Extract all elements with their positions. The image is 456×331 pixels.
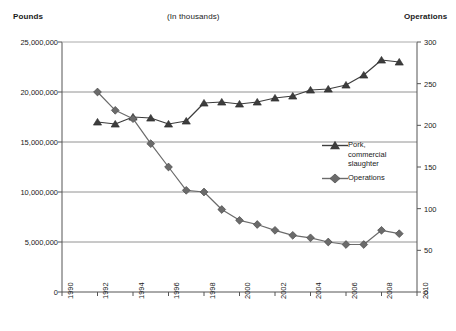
diamond-icon [322,173,348,184]
bottom-axis-tick-label: 2000 [243,282,252,299]
data-point-diamond [236,216,244,224]
left-axis-ticks [58,42,62,292]
legend-item-pork: Pork, commercial slaughter [322,140,408,169]
right-axis-tick-label: 200 [424,121,456,130]
bottom-axis-tick-label: 1992 [101,282,110,299]
right-axis-tick-label: 150 [424,163,456,172]
legend-label-pork: Pork, commercial slaughter [348,140,386,169]
bottom-axis-ticks [62,292,417,296]
data-point-diamond [129,115,137,123]
data-point-diamond [324,238,332,246]
bottom-axis-tick-label: 2010 [421,282,430,299]
bottom-axis-tick-label: 2006 [350,282,359,299]
bottom-axis-tick-label: 1998 [208,282,217,299]
data-point-diamond [253,221,261,229]
left-axis-tick-label: 25,000,000 [0,38,58,47]
data-point-diamond [289,231,297,239]
left-axis-tick-label: 5,000,000 [0,238,58,247]
data-point-diamond [271,226,279,234]
left-axis-tick-label: 10,000,000 [0,188,58,197]
right-axis-tick-label: 300 [424,38,456,47]
data-point-triangle [342,81,350,88]
left-axis-tick-label: 0 [0,288,58,297]
bottom-axis-tick-label: 2008 [385,282,394,299]
chart-container: Pounds (In thousands) Operations 05,000,… [0,0,456,331]
right-axis-tick-label: 250 [424,79,456,88]
data-point-diamond [395,230,403,238]
bottom-axis-tick-label: 1990 [66,282,75,299]
triangle-icon [322,140,348,151]
right-axis-ticks [417,42,421,292]
chart-legend: Pork, commercial slaughter Operations [322,140,408,186]
right-axis-tick-label: 50 [424,246,456,255]
data-point-diamond [307,234,315,242]
left-axis-tick-label: 15,000,000 [0,138,58,147]
bottom-axis-tick-label: 1996 [172,282,181,299]
legend-item-operations: Operations [322,173,408,184]
bottom-axis-tick-label: 2004 [314,282,323,299]
left-axis-tick-label: 20,000,000 [0,88,58,97]
bottom-axis-tick-label: 2002 [279,282,288,299]
bottom-axis-tick-label: 1994 [137,282,146,299]
right-axis-tick-label: 100 [424,204,456,213]
legend-label-operations: Operations [348,173,385,183]
